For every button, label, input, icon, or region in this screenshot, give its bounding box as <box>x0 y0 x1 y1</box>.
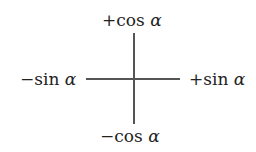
label-top: +cos α <box>102 12 162 29</box>
function: cos <box>116 10 144 30</box>
sign: + <box>189 69 203 89</box>
vertical-axis <box>133 33 135 124</box>
label-right: +sin α <box>189 71 245 88</box>
label-left: −sin α <box>20 71 76 88</box>
variable: α <box>148 126 159 146</box>
sign: − <box>100 126 114 146</box>
variable: α <box>234 69 245 89</box>
function: cos <box>114 126 142 146</box>
variable: α <box>65 69 76 89</box>
function: sin <box>203 69 228 89</box>
function: sin <box>34 69 59 89</box>
label-bottom: −cos α <box>100 128 160 145</box>
variable: α <box>150 10 161 30</box>
sign: − <box>20 69 34 89</box>
sign: + <box>102 10 116 30</box>
